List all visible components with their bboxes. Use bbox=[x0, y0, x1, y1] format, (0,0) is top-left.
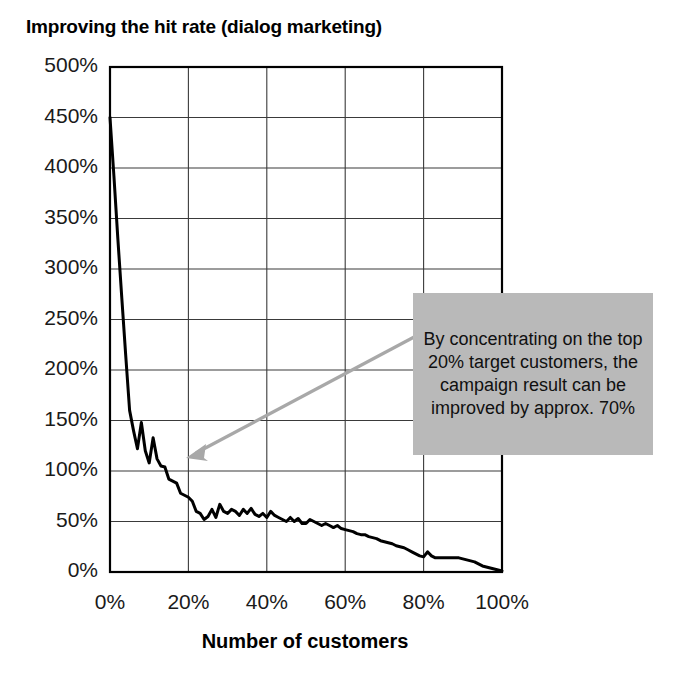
x-axis-title: Number of customers bbox=[0, 630, 610, 653]
y-tick-label: 100% bbox=[0, 457, 98, 481]
y-tick-label: 450% bbox=[0, 104, 98, 128]
annotation-arrow-icon bbox=[186, 336, 416, 461]
chart-container: Improving the hit rate (dialog marketing… bbox=[0, 0, 676, 673]
y-tick-label: 500% bbox=[0, 53, 98, 77]
y-tick-label: 0% bbox=[0, 558, 98, 582]
y-tick-label: 250% bbox=[0, 306, 98, 330]
y-tick-label: 400% bbox=[0, 154, 98, 178]
y-tick-label: 150% bbox=[0, 407, 98, 431]
y-tick-label: 300% bbox=[0, 255, 98, 279]
annotation-callout-text: By concentrating on the top 20% target c… bbox=[413, 328, 653, 419]
x-tick-label: 100% bbox=[452, 590, 552, 614]
annotation-callout-box: By concentrating on the top 20% target c… bbox=[413, 293, 653, 455]
y-tick-label: 50% bbox=[0, 508, 98, 532]
y-tick-label: 350% bbox=[0, 205, 98, 229]
y-tick-label: 200% bbox=[0, 356, 98, 380]
